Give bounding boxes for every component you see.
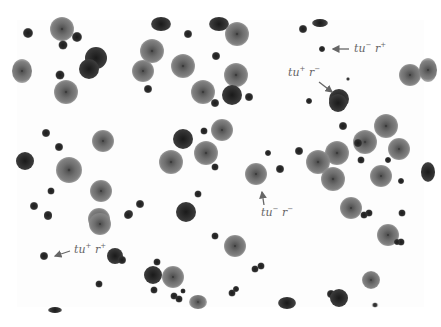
arrow-icon bbox=[55, 251, 70, 256]
label-tu-plus-r-plus: tu+ r+ bbox=[74, 242, 106, 256]
label-tu-minus-r-minus: tu− r− bbox=[261, 205, 293, 219]
label-tu-plus-r-minus: tu+ r− bbox=[288, 65, 320, 79]
plaque-micrograph: tu− r+ tu+ r− tu− r− tu+ r+ bbox=[0, 0, 441, 327]
arrow-icon bbox=[319, 82, 332, 92]
label-tu-minus-r-plus: tu− r+ bbox=[354, 41, 386, 55]
arrow-icon bbox=[262, 192, 264, 205]
